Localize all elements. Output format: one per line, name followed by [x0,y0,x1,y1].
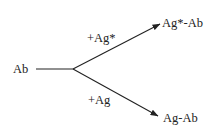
lower-product-label: Ag-Ab [163,111,198,125]
reaction-diagram: Ab +Ag* +Ag Ag*-Ab Ag-Ab [0,0,217,132]
lower-reagent-label: +Ag [88,93,111,107]
lower-arrow [73,69,158,116]
source-label: Ab [13,62,28,76]
upper-product-label: Ag*-Ab [162,16,203,30]
upper-reagent-label: +Ag* [87,31,116,45]
